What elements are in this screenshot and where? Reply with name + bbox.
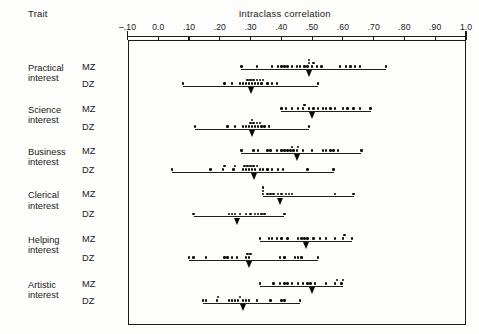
data-point — [256, 299, 258, 301]
data-point — [182, 82, 184, 84]
data-point — [320, 65, 322, 67]
trait-label-line2: interest — [28, 157, 66, 168]
axis-tick-label: –.10 — [119, 22, 136, 32]
axis-line — [128, 36, 467, 37]
axis-tick-label: .70 — [368, 22, 380, 32]
median-marker — [234, 218, 240, 225]
data-point — [245, 168, 247, 170]
data-point — [269, 299, 271, 301]
data-point — [325, 237, 327, 239]
axis-tick-label: .90 — [429, 22, 441, 32]
data-point — [259, 282, 261, 284]
data-point — [266, 193, 268, 195]
data-point — [325, 149, 327, 151]
data-point — [260, 125, 262, 127]
axis-tick-label: .60 — [337, 22, 349, 32]
data-point — [266, 82, 268, 84]
data-point — [268, 237, 270, 239]
data-point — [248, 82, 250, 84]
data-point — [276, 82, 278, 84]
data-point — [280, 237, 282, 239]
data-point — [248, 125, 250, 127]
data-point — [240, 65, 242, 67]
zygosity-label-mz: MZ — [82, 279, 95, 289]
data-point — [276, 149, 278, 151]
data-point — [299, 299, 301, 301]
trait-label: Clericalinterest — [28, 190, 59, 211]
trait-label-line1: Business — [28, 147, 66, 158]
median-marker — [309, 287, 315, 294]
chart-page: Trait Intraclass correlation –.100.0.10.… — [0, 0, 479, 334]
data-point — [279, 256, 281, 258]
data-point — [322, 149, 324, 151]
trait-label: Businessinterest — [28, 147, 66, 168]
data-point — [223, 256, 225, 258]
median-marker — [240, 304, 246, 311]
trait-label-line2: interest — [28, 73, 64, 84]
data-point — [260, 213, 262, 215]
data-point — [283, 282, 285, 284]
data-point — [216, 299, 218, 301]
axis-tick-label: 0.0 — [152, 22, 164, 32]
data-point — [308, 125, 310, 127]
data-point — [309, 282, 311, 284]
data-point — [342, 237, 344, 239]
trait-label-line2: interest — [28, 201, 59, 212]
data-point — [325, 282, 327, 284]
data-point — [192, 256, 194, 258]
trait-label: Helpinginterest — [28, 235, 60, 256]
data-point — [282, 168, 284, 170]
data-point — [248, 299, 250, 301]
data-point — [329, 149, 331, 151]
data-point — [226, 256, 228, 258]
data-point — [369, 107, 371, 109]
data-point — [263, 125, 265, 127]
data-point — [312, 107, 314, 109]
trait-label: Practicalinterest — [28, 63, 64, 84]
data-point — [283, 299, 285, 301]
data-point — [352, 107, 354, 109]
data-point — [283, 65, 285, 67]
zygosity-label-dz: DZ — [82, 296, 94, 306]
data-point — [188, 256, 190, 258]
data-point — [302, 107, 304, 109]
zygosity-label-dz: DZ — [82, 165, 94, 175]
data-point — [359, 65, 361, 67]
data-point — [352, 193, 354, 195]
data-point — [286, 237, 288, 239]
data-point — [228, 299, 230, 301]
zygosity-label-mz: MZ — [82, 104, 95, 114]
trait-label: Scienceinterest — [28, 105, 61, 126]
axis-title: Intraclass correlation — [239, 8, 331, 19]
data-point — [302, 149, 304, 151]
axis-tick — [127, 31, 128, 40]
data-point — [300, 256, 302, 258]
data-point — [345, 65, 347, 67]
range-line — [260, 286, 343, 287]
data-point — [279, 282, 281, 284]
data-point — [332, 149, 334, 151]
zygosity-label-mz: MZ — [82, 189, 95, 199]
data-point — [248, 168, 250, 170]
data-point — [332, 168, 334, 170]
data-point — [342, 107, 344, 109]
zygosity-label-dz: DZ — [82, 122, 94, 132]
trait-label-line1: Helping — [28, 235, 60, 246]
data-point — [262, 168, 264, 170]
data-point — [249, 213, 251, 215]
data-point — [232, 168, 234, 170]
data-point — [205, 256, 207, 258]
data-point — [360, 149, 362, 151]
data-point — [306, 282, 308, 284]
trait-label-line1: Clerical — [28, 190, 59, 201]
data-point — [280, 299, 282, 301]
data-point — [306, 65, 308, 67]
median-marker — [249, 130, 255, 137]
trait-label-line2: interest — [28, 245, 60, 256]
data-point — [296, 65, 298, 67]
median-marker — [294, 154, 300, 161]
data-point — [303, 237, 305, 239]
data-point — [280, 149, 282, 151]
axis-tick-label: .40 — [275, 22, 287, 32]
trait-label-line2: interest — [28, 290, 59, 301]
